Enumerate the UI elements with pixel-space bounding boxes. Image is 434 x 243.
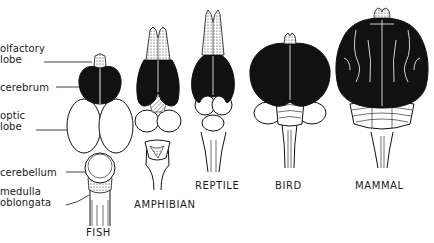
- label-cerebrum: cerebrum: [0, 82, 49, 93]
- caption-fish: FISH: [86, 227, 111, 238]
- brain-comparison-figure: olfactory lobe cerebrum optic lobe cereb…: [0, 0, 434, 243]
- label-optic-lobe: optic lobe: [0, 110, 25, 132]
- brain-illustrations: [0, 0, 434, 243]
- caption-bird: BIRD: [275, 180, 302, 191]
- label-cerebellum: cerebellum: [0, 167, 57, 178]
- label-medulla-oblongata: medulla oblongata: [0, 186, 51, 208]
- caption-reptile: REPTILE: [195, 180, 239, 191]
- caption-mammal: MAMMAL: [355, 180, 404, 191]
- amphibian-brain: [135, 27, 181, 190]
- caption-amphibian: AMPHIBIAN: [134, 199, 196, 210]
- reptile-brain: [192, 10, 235, 172]
- bird-brain: [250, 33, 330, 168]
- label-olfactory-lobe: olfactory lobe: [0, 43, 45, 65]
- fish-brain: [67, 54, 133, 226]
- mammal-brain: [336, 8, 428, 168]
